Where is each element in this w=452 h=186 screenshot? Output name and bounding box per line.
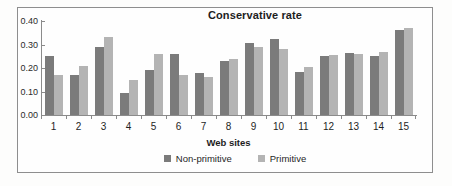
bar-non-primitive — [95, 47, 104, 115]
bar-group — [266, 21, 291, 115]
bar-non-primitive — [270, 39, 279, 115]
bar-group — [141, 21, 166, 115]
x-axis-tick-labels: 123456789101112131415 — [41, 121, 416, 135]
bar-non-primitive — [145, 70, 154, 115]
legend-label: Primitive — [270, 153, 306, 164]
x-tick-label: 7 — [191, 121, 216, 135]
bar-non-primitive — [120, 93, 129, 115]
x-tick-mark — [366, 115, 391, 120]
y-tick-label: 0.40 — [20, 16, 38, 26]
bar-non-primitive — [345, 53, 354, 115]
bar-non-primitive — [220, 61, 229, 115]
bar-primitive — [404, 28, 413, 115]
x-tick-mark — [316, 115, 341, 120]
bar-primitive — [129, 80, 138, 115]
x-tick-label: 15 — [391, 121, 416, 135]
y-tick-mark — [41, 21, 45, 22]
bar-primitive — [54, 75, 63, 115]
bar-group — [216, 21, 241, 115]
x-tick-label: 11 — [291, 121, 316, 135]
y-tick-mark — [41, 115, 45, 116]
y-tick-label: 0.00 — [20, 110, 38, 120]
x-tick-mark — [216, 115, 241, 120]
bar-primitive — [304, 67, 313, 115]
x-axis-title: Web sites — [41, 137, 416, 148]
bar-group — [166, 21, 191, 115]
bar-group — [241, 21, 266, 115]
bar-primitive — [279, 49, 288, 115]
bar-primitive — [354, 54, 363, 115]
bar-group — [366, 21, 391, 115]
x-tick-label: 5 — [141, 121, 166, 135]
x-axis-ticks — [41, 115, 416, 120]
bar-primitive — [179, 75, 188, 115]
x-tick-label: 9 — [241, 121, 266, 135]
y-tick-label: 0.30 — [20, 40, 38, 50]
bar-primitive — [79, 66, 88, 115]
legend-swatch-icon — [164, 155, 171, 162]
bar-primitive — [229, 59, 238, 115]
x-tick-mark — [191, 115, 216, 120]
x-tick-mark — [141, 115, 166, 120]
legend-item[interactable]: Non-primitive — [164, 153, 232, 164]
bar-primitive — [104, 37, 113, 115]
x-tick-label: 3 — [91, 121, 116, 135]
chart-figure: Conservative rate 0.400.300.200.100.00 1… — [0, 0, 452, 186]
bar-non-primitive — [295, 72, 304, 115]
x-tick-label: 6 — [166, 121, 191, 135]
bar-group — [91, 21, 116, 115]
y-tick-mark — [41, 68, 45, 69]
y-tick-mark — [41, 92, 45, 93]
x-tick-mark — [341, 115, 366, 120]
bar-non-primitive — [370, 56, 379, 115]
bar-primitive — [379, 52, 388, 115]
bar-groups — [41, 21, 416, 115]
x-tick-mark — [91, 115, 116, 120]
x-tick-label: 12 — [316, 121, 341, 135]
bar-primitive — [254, 47, 263, 115]
bar-group — [291, 21, 316, 115]
bar-primitive — [329, 55, 338, 115]
bar-non-primitive — [320, 56, 329, 115]
bar-non-primitive — [245, 43, 254, 115]
x-tick-mark — [291, 115, 316, 120]
chart-title: Conservative rate — [0, 9, 452, 21]
bar-group — [341, 21, 366, 115]
x-tick-label: 10 — [266, 121, 291, 135]
bar-group — [116, 21, 141, 115]
x-tick-label: 1 — [41, 121, 66, 135]
bar-group — [66, 21, 91, 115]
legend-item[interactable]: Primitive — [258, 153, 306, 164]
x-tick-label: 13 — [341, 121, 366, 135]
x-tick-mark — [116, 115, 141, 120]
bar-group — [191, 21, 216, 115]
x-tick-mark — [391, 115, 416, 120]
bar-non-primitive — [395, 30, 404, 115]
x-tick-mark — [266, 115, 291, 120]
x-tick-mark — [241, 115, 266, 120]
y-tick-label: 0.20 — [20, 63, 38, 73]
chart-legend: Non-primitivePrimitive — [0, 153, 452, 164]
x-tick-label: 14 — [366, 121, 391, 135]
bar-non-primitive — [45, 56, 54, 115]
x-tick-label: 8 — [216, 121, 241, 135]
legend-label: Non-primitive — [176, 153, 232, 164]
bar-non-primitive — [70, 75, 79, 115]
y-tick-mark — [41, 45, 45, 46]
bar-primitive — [204, 77, 213, 115]
x-tick-label: 4 — [116, 121, 141, 135]
x-tick-mark — [66, 115, 91, 120]
bar-non-primitive — [170, 54, 179, 115]
y-tick-label: 0.10 — [20, 87, 38, 97]
bar-primitive — [154, 54, 163, 115]
bar-group — [316, 21, 341, 115]
x-tick-mark — [166, 115, 191, 120]
bar-non-primitive — [195, 73, 204, 115]
legend-swatch-icon — [258, 155, 265, 162]
x-tick-label: 2 — [66, 121, 91, 135]
bar-group — [391, 21, 416, 115]
